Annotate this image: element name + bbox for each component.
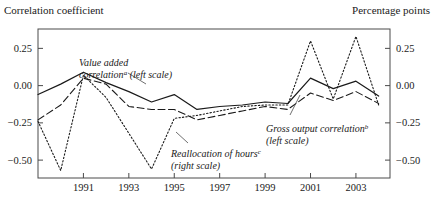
x-axis-tick-label: 1993 <box>118 182 139 193</box>
x-axis-ticks: 1991199319951997199920012003 <box>73 173 367 193</box>
y-axis-right-tick-label: −0.25 <box>396 117 420 128</box>
y-axis-left-tick-label: 0.25 <box>14 43 32 54</box>
y-axis-right-tick-label: 0.25 <box>396 43 414 54</box>
annotation-gross-output-line2: (left scale) <box>266 135 309 147</box>
annotation-value-added-scale: (left scale) <box>127 69 173 81</box>
annotation-reallocation-line2: (right scale) <box>171 160 221 172</box>
x-axis-tick-label: 1991 <box>73 182 94 193</box>
svg-text:Value added: Value added <box>79 57 129 68</box>
line-chart-plot: 0.250.00−0.25−0.50 0.250.00−0.25−0.50 19… <box>0 0 434 208</box>
y-axis-left-tick-label: 0.00 <box>14 80 32 91</box>
leader-line-reallocation <box>176 132 188 143</box>
leader-line-gross-output <box>290 95 300 115</box>
chart-figure: Correlation coefficient Percentage point… <box>0 0 434 208</box>
svg-text:correlationa (left scale): correlationa (left scale) <box>79 69 173 81</box>
x-axis-tick-label: 2003 <box>345 182 366 193</box>
y-axis-right-tick-label: −0.50 <box>396 155 420 166</box>
svg-text:(left scale): (left scale) <box>266 135 309 147</box>
annotation-reallocation-superscript: c <box>258 148 262 156</box>
y-axis-left-tick-label: −0.25 <box>8 117 32 128</box>
svg-text:Gross output correlationb: Gross output correlationb <box>266 123 369 134</box>
svg-text:(right scale): (right scale) <box>171 160 221 172</box>
annotation-value-added-line2: correlation <box>79 69 124 80</box>
x-axis-tick-label: 1995 <box>164 182 185 193</box>
y-axis-left-tick-label: −0.50 <box>8 155 32 166</box>
annotation-gross-output: Gross output correlationb (left scale) <box>266 123 369 147</box>
x-axis-tick-label: 1999 <box>255 182 276 193</box>
annotation-gross-output-superscript: b <box>365 123 369 131</box>
annotation-value-added-line1: Value added <box>79 57 129 68</box>
svg-text:Reallocation of hoursc: Reallocation of hoursc <box>170 148 262 159</box>
annotation-reallocation-line1: Reallocation of hours <box>170 148 258 159</box>
x-axis-tick-label: 1997 <box>209 182 230 193</box>
annotation-reallocation: Reallocation of hoursc (right scale) <box>170 148 262 172</box>
x-axis-tick-label: 2001 <box>300 182 321 193</box>
annotation-value-added: Value added correlationa (left scale) <box>79 57 173 81</box>
annotation-gross-output-line1: Gross output correlation <box>266 123 365 134</box>
y-axis-right-tick-label: 0.00 <box>396 80 414 91</box>
